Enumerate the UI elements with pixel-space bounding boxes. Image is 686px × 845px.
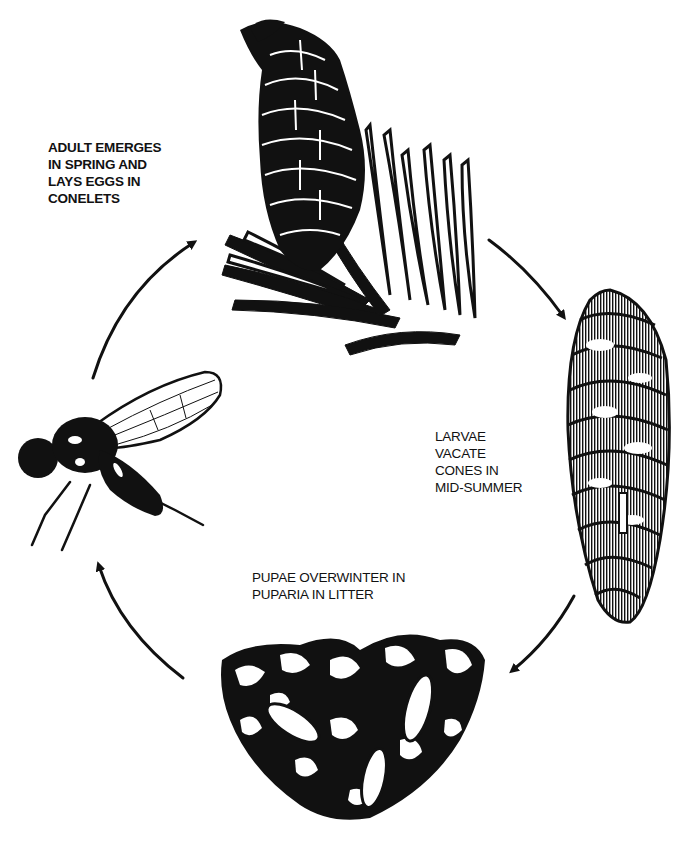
- arrow-conelet-to-cone: [489, 240, 563, 316]
- caption-larvae-vacate: LARVAE VACATE CONES IN MID-SUMMER: [435, 428, 545, 496]
- arrow-litter-to-fly: [99, 566, 183, 678]
- mature-cone-illustration: [568, 290, 670, 622]
- adult-fly-illustration: [18, 372, 221, 550]
- larva-exit-slit: [619, 493, 627, 533]
- caption-adult-emerges: ADULT EMERGES IN SPRING AND LAYS EGGS IN…: [48, 139, 218, 207]
- caption-pupae-overwinter: PUPAE OVERWINTER IN PUPARIA IN LITTER: [252, 569, 492, 603]
- life-cycle-diagram: [0, 0, 686, 845]
- conelet-illustration: [222, 20, 475, 355]
- arrow-fly-to-conelet: [93, 243, 193, 378]
- puparia-litter-illustration: [221, 634, 485, 819]
- arrow-cone-to-litter: [513, 596, 574, 670]
